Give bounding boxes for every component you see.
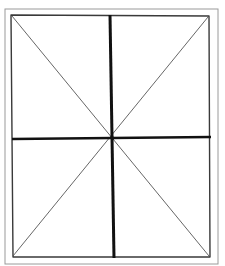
sketch-diagram — [0, 0, 225, 266]
center-point — [111, 136, 114, 139]
